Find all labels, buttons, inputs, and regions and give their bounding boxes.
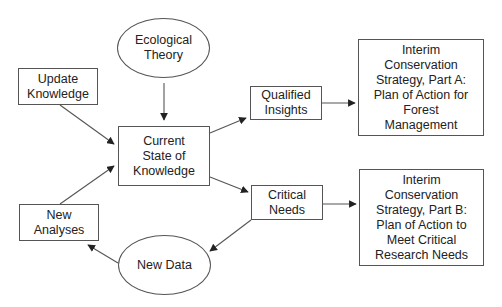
- node-label: Interim Conservation Strategy, Part A: P…: [374, 43, 469, 133]
- node-label: Qualified Insights: [261, 88, 310, 118]
- node-current-state-of-knowledge: Current State of Knowledge: [118, 126, 210, 186]
- arrow-update-knowledge-to-current-state: [60, 105, 114, 144]
- arrow-new-analyses-to-current-state: [60, 166, 114, 204]
- arrow-current-state-to-qualified-insights: [210, 118, 246, 133]
- arrow-new-data-to-new-analyses: [88, 245, 118, 263]
- node-ecological-theory: Ecological Theory: [117, 18, 210, 78]
- node-strategy-part-b: Interim Conservation Strategy, Part B: P…: [359, 169, 484, 266]
- node-new-data: New Data: [118, 235, 211, 295]
- node-label: Current State of Knowledge: [133, 134, 195, 179]
- node-label: Critical Needs: [268, 188, 306, 218]
- node-strategy-part-a: Interim Conservation Strategy, Part A: P…: [358, 39, 484, 136]
- node-label: New Analyses: [34, 208, 85, 238]
- node-label: Update Knowledge: [27, 72, 89, 102]
- arrow-current-state-to-critical-needs: [210, 177, 248, 192]
- node-label: Interim Conservation Strategy, Part B: P…: [375, 173, 468, 263]
- node-new-analyses: New Analyses: [19, 204, 99, 241]
- node-label: Ecological Theory: [135, 33, 192, 63]
- node-label: New Data: [137, 258, 192, 273]
- node-update-knowledge: Update Knowledge: [18, 68, 98, 105]
- node-critical-needs: Critical Needs: [251, 185, 323, 220]
- node-qualified-insights: Qualified Insights: [250, 86, 322, 120]
- arrow-critical-needs-to-new-data: [210, 220, 251, 251]
